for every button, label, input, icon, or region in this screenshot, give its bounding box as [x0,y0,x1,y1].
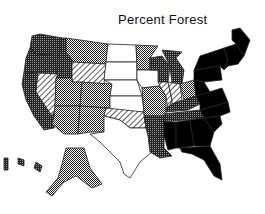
state-colorado: Colorado [80,82,112,108]
state-wyoming: Wyoming [72,62,106,84]
state-arizona: Arizona [52,106,80,134]
state-north-dakota: North Dakota [106,44,137,62]
state-south-dakota: South Dakota [104,62,137,80]
state-utah: Utah [55,78,82,106]
state-new-mexico: New Mexico [78,106,106,134]
state-mississippi: Mississippi [164,122,176,150]
state-alaska: Alaska [46,148,102,196]
state-florida: Florida [180,146,222,180]
state-hawaii: Hawaii [4,158,42,172]
state-montana: Montana [66,38,108,64]
state-new-york: New York [194,48,228,70]
state-iowa: Iowa [137,70,160,88]
state-arkansas: Arkansas [144,116,166,136]
us-choropleth-map: WashingtonOregonCaliforniaIdahoNevadaMon… [0,0,265,214]
